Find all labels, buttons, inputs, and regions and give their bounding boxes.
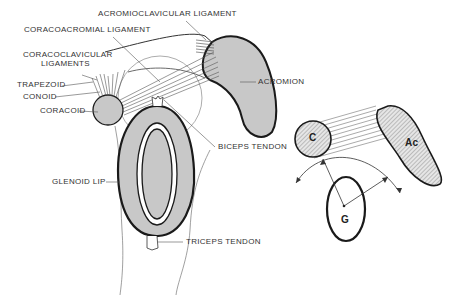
schematic-diagram [295,106,441,241]
label-g: G [341,215,349,225]
label-coracoacromial-ligament: CORACOACROMIAL LIGAMENT [24,26,151,34]
glenoid-schematic [327,177,365,241]
shoulder-anatomy-diagram: ACROMIOCLAVICULAR LIGAMENT CORACOACROMIA… [0,0,458,295]
label-c: C [309,133,317,143]
label-acromioclavicular-ligament: ACROMIOCLAVICULAR LIGAMENT [98,10,237,18]
triceps-tendon-stub [147,236,158,250]
label-coracoid: CORACOID [40,107,86,115]
coracoid-shape [93,95,123,125]
label-glenoid-lip: GLENOID LIP [52,178,106,186]
label-biceps-tendon: BICEPS TENDON [218,143,287,151]
biceps-tendon-stub [152,96,163,106]
label-ac: Ac [405,138,418,148]
label-triceps-tendon: TRICEPS TENDON [186,238,261,246]
label-ligaments: LIGAMENTS [41,60,90,68]
coracoclavicular-ligaments [92,70,125,98]
label-acromion: ACROMION [258,78,304,86]
glenoid-fossa [142,129,172,219]
label-trapezoid: TRAPEZOID [17,81,65,89]
acromion-shape [203,36,277,136]
label-coracoclavicular: CORACOCLAVICULAR [23,51,113,59]
label-conoid: CONOID [23,93,57,101]
